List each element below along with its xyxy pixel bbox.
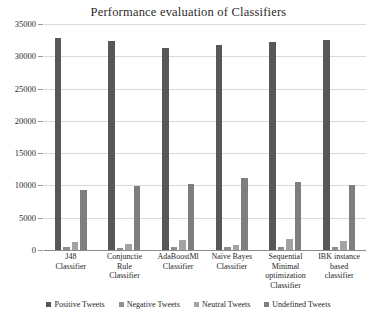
bar <box>72 242 79 250</box>
y-tick-label-20000: 20000 <box>0 116 36 126</box>
bar <box>224 247 231 250</box>
chart-legend: Positive TweetsNegative TweetsNeutral Tw… <box>0 300 377 309</box>
bar <box>340 241 347 250</box>
gridline-0 <box>44 250 366 251</box>
legend-item[interactable]: Negative Tweets <box>119 300 180 309</box>
bar <box>332 247 339 250</box>
bar <box>162 48 169 250</box>
x-tick-label-line: Minimal <box>259 262 313 272</box>
x-tick-label-line: Classifier <box>205 262 259 272</box>
x-tick-label: J48Classifier <box>44 252 98 271</box>
bar <box>117 248 124 250</box>
legend-label: Neutral Tweets <box>202 300 250 309</box>
bar <box>233 245 240 250</box>
x-tick-label-line: Classifier <box>259 281 313 291</box>
y-tick-label-15000: 15000 <box>0 148 36 158</box>
legend-swatch-icon <box>264 302 269 307</box>
bar-group <box>259 24 313 250</box>
y-tick-mark-30000 <box>38 56 43 57</box>
legend-item[interactable]: Neutral Tweets <box>194 300 250 309</box>
legend-item[interactable]: Positive Tweets <box>46 300 104 309</box>
bar <box>134 186 141 250</box>
bar <box>216 45 223 250</box>
y-tick-label-10000: 10000 <box>0 180 36 190</box>
y-tick-label-25000: 25000 <box>0 84 36 94</box>
bar <box>125 244 132 250</box>
y-tick-label-5000: 5000 <box>0 213 36 223</box>
y-tick-mark-35000 <box>38 24 43 25</box>
legend-swatch-icon <box>194 302 199 307</box>
y-axis-labels: 05000100001500020000250003000035000 <box>0 24 40 250</box>
bar <box>188 184 195 251</box>
x-axis-labels: J48ClassifierConjunctieRuleClassifierAda… <box>44 252 366 296</box>
x-tick-label: AdaBoostMlClassifier <box>151 252 205 271</box>
y-tick-mark-25000 <box>38 89 43 90</box>
bar <box>63 247 70 250</box>
x-tick-label: Naïve BayesClassifier <box>205 252 259 271</box>
y-tick-mark-20000 <box>38 121 43 122</box>
chart-title: Performance evaluation of Classifiers <box>0 5 377 20</box>
legend-label: Undefined Tweets <box>272 300 330 309</box>
bar <box>55 38 62 250</box>
legend-item[interactable]: Undefined Tweets <box>264 300 330 309</box>
bar-group <box>312 24 366 250</box>
y-tick-mark-5000 <box>38 218 43 219</box>
x-tick-label-line: classifier <box>312 271 366 281</box>
y-tick-mark-15000 <box>38 153 43 154</box>
x-tick-label-line: Conjunctie <box>98 252 152 262</box>
y-tick-label-0: 0 <box>0 245 36 255</box>
y-tick-mark-0 <box>38 250 43 251</box>
x-tick-label-line: J48 <box>44 252 98 262</box>
legend-swatch-icon <box>46 302 51 307</box>
bar-group <box>98 24 152 250</box>
bar <box>108 41 115 250</box>
y-tick-label-35000: 35000 <box>0 19 36 29</box>
bar <box>286 239 293 250</box>
y-tick-label-30000: 30000 <box>0 51 36 61</box>
bar-group <box>205 24 259 250</box>
bar <box>179 240 186 250</box>
x-tick-label-line: based <box>312 262 366 272</box>
x-tick-label-line: IBK instance <box>312 252 366 262</box>
x-tick-label-line: Sequential <box>259 252 313 262</box>
bar <box>171 247 178 250</box>
x-tick-label: ConjunctieRuleClassifier <box>98 252 152 281</box>
x-tick-label-line: Classifier <box>98 271 152 281</box>
bars-layer <box>44 24 366 250</box>
bar <box>269 42 276 250</box>
bar <box>278 247 285 250</box>
bar-group <box>44 24 98 250</box>
bar <box>241 178 248 250</box>
x-tick-label-line: optimization <box>259 271 313 281</box>
x-tick-label-line: Naïve Bayes <box>205 252 259 262</box>
bar <box>295 182 302 250</box>
legend-label: Positive Tweets <box>54 300 104 309</box>
bar <box>349 185 356 250</box>
x-tick-label: SequentialMinimaloptimizationClassifier <box>259 252 313 290</box>
plot-area <box>44 24 366 250</box>
x-tick-label-line: Classifier <box>44 262 98 272</box>
x-tick-label-line: Classifier <box>151 262 205 272</box>
x-tick-label: IBK instancebasedclassifier <box>312 252 366 281</box>
x-tick-label-line: Rule <box>98 262 152 272</box>
bar <box>323 40 330 250</box>
bar-group <box>151 24 205 250</box>
legend-label: Negative Tweets <box>127 300 180 309</box>
chart-container: Performance evaluation of Classifiers 05… <box>0 0 377 322</box>
legend-swatch-icon <box>119 302 124 307</box>
y-tick-mark-10000 <box>38 185 43 186</box>
bar <box>80 190 87 250</box>
x-tick-label-line: AdaBoostMl <box>151 252 205 262</box>
